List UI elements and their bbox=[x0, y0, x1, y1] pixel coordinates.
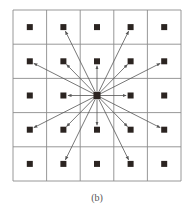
grid-node bbox=[94, 58, 100, 64]
grid-node bbox=[27, 58, 33, 64]
figure-caption: (b) bbox=[0, 192, 189, 203]
grid-node bbox=[128, 24, 134, 30]
grid-node bbox=[128, 127, 134, 133]
arrow bbox=[65, 96, 97, 160]
grid-node bbox=[128, 161, 134, 167]
arrow bbox=[65, 31, 97, 95]
grid-node bbox=[60, 24, 66, 30]
arrow bbox=[67, 65, 97, 96]
grid-node bbox=[161, 93, 167, 99]
arrow bbox=[97, 96, 127, 127]
arrow bbox=[97, 65, 127, 96]
center-node bbox=[94, 92, 101, 99]
grid-diagram bbox=[0, 0, 189, 211]
grid-node bbox=[27, 161, 33, 167]
grid-node bbox=[161, 24, 167, 30]
grid-node bbox=[60, 93, 66, 99]
arrow bbox=[97, 63, 160, 95]
grid-node bbox=[161, 161, 167, 167]
grid-node bbox=[60, 127, 66, 133]
arrow bbox=[67, 96, 97, 127]
grid-node bbox=[161, 58, 167, 64]
grid-node bbox=[60, 58, 66, 64]
grid-node bbox=[60, 161, 66, 167]
grid-node bbox=[27, 24, 33, 30]
grid-node bbox=[94, 24, 100, 30]
grid-node bbox=[128, 93, 134, 99]
arrow bbox=[34, 96, 97, 128]
grid-node bbox=[161, 127, 167, 133]
grid-node bbox=[27, 93, 33, 99]
grid-node bbox=[94, 127, 100, 133]
nodes bbox=[27, 24, 167, 167]
arrow bbox=[97, 96, 129, 160]
arrow bbox=[97, 96, 160, 128]
arrow bbox=[34, 63, 97, 95]
arrow bbox=[97, 31, 129, 95]
grid-node bbox=[94, 161, 100, 167]
grid-node bbox=[27, 127, 33, 133]
grid-node bbox=[128, 58, 134, 64]
